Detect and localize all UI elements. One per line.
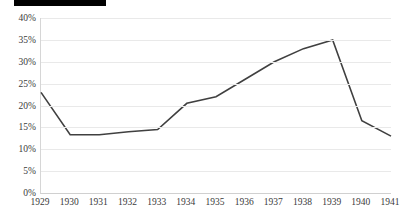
y-axis-tick-label: 20%	[0, 101, 36, 111]
plot-area	[40, 18, 391, 194]
y-axis-tick-label: 35%	[0, 35, 36, 45]
y-axis-tick-label: 40%	[0, 13, 36, 23]
gridline	[41, 62, 391, 63]
gridline	[41, 171, 391, 172]
x-axis-tick-label: 1934	[176, 197, 195, 207]
gridline	[41, 106, 391, 107]
data-series-line	[41, 40, 391, 136]
x-axis-labels: 1929193019311932193319341935193619371938…	[40, 197, 390, 213]
x-axis-tick-label: 1941	[381, 197, 400, 207]
gridline	[41, 84, 391, 85]
x-axis-tick-label: 1935	[206, 197, 225, 207]
x-axis-tick-label: 1937	[264, 197, 283, 207]
x-axis-tick-label: 1939	[322, 197, 341, 207]
x-axis-tick-label: 1940	[351, 197, 370, 207]
y-axis-tick-label: 30%	[0, 57, 36, 67]
line-chart: 0%5%10%15%20%25%30%35%40% 19291930193119…	[0, 7, 395, 213]
gridline	[41, 18, 391, 19]
x-axis-tick-label: 1932	[118, 197, 137, 207]
title-strip	[0, 0, 395, 7]
gridline	[41, 149, 391, 150]
x-axis-tick-label: 1930	[60, 197, 79, 207]
gridline	[41, 40, 391, 41]
x-axis-tick-label: 1929	[31, 197, 50, 207]
title-highlight-block	[14, 0, 106, 6]
x-axis-tick-label: 1933	[147, 197, 166, 207]
y-axis-tick-label: 10%	[0, 144, 36, 154]
y-axis-tick-label: 5%	[0, 166, 36, 176]
y-axis-tick-label: 15%	[0, 122, 36, 132]
x-axis-tick-label: 1931	[89, 197, 108, 207]
x-axis-tick-label: 1938	[293, 197, 312, 207]
y-axis-tick-label: 25%	[0, 79, 36, 89]
y-axis-labels: 0%5%10%15%20%25%30%35%40%	[0, 7, 36, 187]
gridline	[41, 127, 391, 128]
x-axis-tick-label: 1936	[235, 197, 254, 207]
